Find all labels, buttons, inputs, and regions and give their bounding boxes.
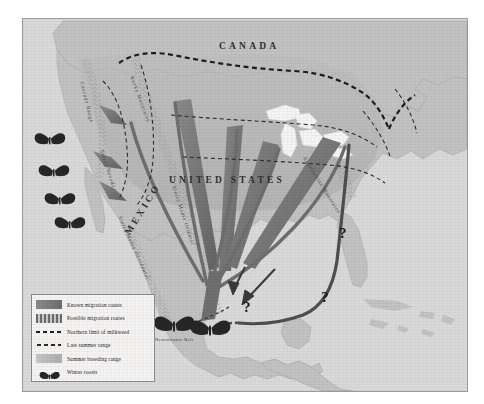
feature-label-neovolcanic-belt: Neovolcanic Belt: [155, 337, 193, 342]
legend-swatch-summer-breeding-range: [36, 354, 62, 363]
legend-label-summer-breeding-range: Summer breeding range: [67, 356, 121, 362]
map-legend: Known migration routes Possible migratio…: [31, 294, 155, 382]
question-mark-atlantic-route: ?: [339, 225, 347, 242]
legend-item-northern-limit-milkweed: Northern limit of milkweed: [36, 325, 150, 339]
legend-label-winter-roosts: Winter roosts: [67, 369, 97, 375]
butterfly-icon: [36, 372, 62, 382]
legend-item-possible-migration-routes: Possible migration routes: [36, 312, 150, 326]
legend-item-winter-roosts: Winter roosts: [36, 366, 150, 380]
country-label-united-states: UNITED STATES: [169, 175, 285, 185]
page-root: CANADA UNITED STATES MEXICO Cascade Rang…: [0, 0, 484, 404]
legend-label-late-summer-range: Late summer range: [67, 342, 110, 348]
legend-swatch-late-summer-range: [36, 341, 62, 350]
legend-swatch-winter-roosts: [36, 368, 62, 377]
country-label-canada: CANADA: [219, 41, 279, 51]
legend-swatch-northern-limit-milkweed: [36, 327, 62, 336]
legend-swatch-possible-migration-routes: [36, 314, 62, 323]
migration-map: CANADA UNITED STATES MEXICO Cascade Rang…: [22, 18, 468, 392]
legend-item-late-summer-range: Late summer range: [36, 339, 150, 353]
question-mark-gulf-crossing-route: ?: [243, 299, 251, 316]
question-mark-gulf-coast-route: ?: [321, 289, 329, 306]
legend-label-known-migration-routes: Known migration routes: [67, 302, 122, 308]
legend-item-summer-breeding-range: Summer breeding range: [36, 352, 150, 366]
legend-label-possible-migration-routes: Possible migration routes: [67, 315, 125, 321]
legend-label-northern-limit-milkweed: Northern limit of milkweed: [67, 329, 129, 335]
legend-swatch-known-migration-routes: [36, 300, 62, 309]
legend-item-known-migration-routes: Known migration routes: [36, 298, 150, 312]
